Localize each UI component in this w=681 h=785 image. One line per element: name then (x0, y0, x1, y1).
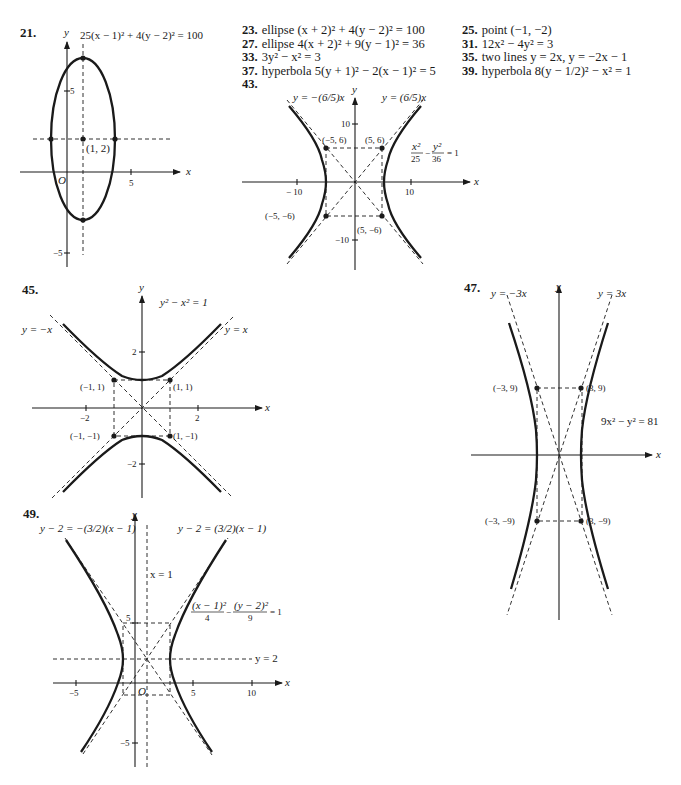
y-axis-label: y (138, 281, 144, 293)
vline-label: x = 1 (150, 568, 173, 580)
tick-label: −5 (53, 248, 63, 258)
tick-label: −2 (80, 413, 90, 423)
asymptote-left-label: y = −(6/5)x (292, 91, 345, 104)
equation-label: y² − x² = 1 (159, 296, 208, 308)
equation-label: x² 25 − y² 36 = 1 (411, 140, 459, 164)
co-vertex-right (112, 136, 117, 141)
point-label: (−3, −9) (485, 516, 515, 526)
origin-label: O (58, 174, 66, 186)
equation-label: 25(x − 1)² + 4(y − 2)² = 100 (80, 29, 204, 42)
figure-49-hyperbola: −5 5 10 5 −5 O x y x = 1 y = 2 y − 2 = −… (39, 508, 290, 770)
x-axis-label: x (473, 175, 479, 187)
tick-label: 2 (132, 347, 137, 357)
x-axis-label: x (264, 401, 270, 413)
vertex-top (80, 55, 85, 60)
asymptote-negative (50, 315, 232, 497)
tick-label: 5 (126, 613, 131, 623)
tick-label: 10 (405, 187, 415, 197)
y-axis-label: y (351, 83, 357, 95)
tick-label: 10 (247, 688, 257, 698)
point-label: (3, 9) (586, 383, 606, 393)
eq-minus: − (425, 148, 430, 158)
asymptote-negative (65, 538, 212, 755)
point-neg1-1 (111, 377, 116, 382)
y-axis-label: y (555, 280, 561, 292)
eq-den: 9 (248, 613, 253, 623)
center-label: (1, 2) (86, 142, 110, 155)
asymptote-left-label: y = −x (21, 323, 52, 335)
tick-label: −2 (127, 459, 137, 469)
co-vertex-left (48, 136, 53, 141)
tick-label: 10 (341, 119, 351, 129)
asymptote-left-label: y − 2 = −(3/2)(x − 1) (39, 522, 136, 535)
x-axis-label: x (284, 676, 290, 688)
point-neg3-9 (534, 385, 539, 390)
tick-label: −10 (335, 235, 350, 245)
hyperbola-right-branch (170, 540, 226, 752)
figures-canvas: 5 5 −5 O x y (1, 2) 25(x − 1)² + 4(y − 2… (0, 0, 681, 785)
point-neg3-neg9 (534, 518, 539, 523)
tick-label: −5 (120, 738, 130, 748)
center-point (80, 136, 85, 141)
point-5-6 (379, 145, 384, 150)
point-label: (−1, −1) (70, 431, 100, 441)
point-neg5-6 (323, 145, 328, 150)
eq-den: 36 (432, 154, 442, 164)
eq-num: x² (411, 140, 421, 152)
tick-label: 5 (191, 688, 196, 698)
eq-den: 25 (411, 154, 421, 164)
eq-num: (y − 2)² (234, 599, 269, 612)
hyperbola-left-branch (509, 323, 537, 589)
equation-label: (x − 1)² 4 − (y − 2)² 9 = 1 (191, 599, 282, 623)
point-label: (3, −9) (586, 516, 611, 526)
eq-num: y² (432, 140, 442, 152)
hyperbola-right-branch (581, 323, 608, 589)
hyperbola-left-branch (66, 540, 123, 752)
y-axis-label: y (131, 508, 137, 520)
point-label: (5, −6) (357, 225, 382, 235)
equation-label: 9x² − y² = 81 (601, 415, 659, 427)
figure-45-hyperbola: −2 2 2 −2 x y y² − x² = 1 y = −x y = x (… (21, 281, 270, 498)
asymptote-left-label: y = −3x (490, 287, 527, 299)
point-5-neg6 (379, 213, 384, 218)
x-axis-label: x (655, 448, 661, 460)
eq-minus: − (226, 607, 231, 617)
figure-21-ellipse: 5 5 −5 O x y (1, 2) 25(x − 1)² + 4(y − 2… (20, 26, 204, 267)
asymptote-right-label: y − 2 = (3/2)(x − 1) (177, 522, 267, 535)
asymptote-right-label: y = (6/5)x (381, 91, 426, 104)
origin-label: O (138, 685, 146, 697)
tick-label: −5 (69, 688, 79, 698)
point-neg5-neg6 (323, 213, 328, 218)
vertex-bottom (80, 217, 85, 222)
hline-label: y = 2 (255, 652, 278, 664)
point-label: (5, 6) (365, 135, 385, 145)
point-3-9 (578, 385, 583, 390)
point-label: (−3, 9) (493, 383, 518, 393)
point-label: (1, −1) (173, 431, 198, 441)
eq-rhs: = 1 (270, 607, 282, 617)
tick-label: 5 (70, 86, 75, 96)
asymptote-right-label: y = x (224, 323, 248, 335)
figure-47-hyperbola: x y y = −3x y = 3x 9x² − y² = 81 (−3, 9)… (471, 280, 661, 620)
point-label: (−5, −6) (265, 211, 295, 221)
point-3-neg9 (578, 518, 583, 523)
tick-label: − 10 (286, 187, 303, 197)
tick-label: 5 (129, 178, 134, 188)
y-axis-label: y (63, 26, 69, 38)
tick-label: 2 (195, 413, 200, 423)
figure-43-hyperbola: − 10 10 10 −10 x y (−5, 6) (5, 6) (−5, −… (242, 83, 479, 270)
point-neg1-neg1 (111, 433, 116, 438)
point-label: (1, 1) (173, 382, 193, 392)
asymptote-positive (52, 315, 235, 498)
x-axis-label: x (185, 165, 191, 177)
point-1-neg1 (167, 433, 172, 438)
eq-den: 4 (205, 613, 210, 623)
asymptote-right-label: y = 3x (597, 287, 626, 299)
eq-rhs: = 1 (447, 148, 459, 158)
point-label: (−1, 1) (80, 382, 105, 392)
point-1-1 (167, 377, 172, 382)
eq-num: (x − 1)² (192, 599, 227, 612)
point-label: (−5, 6) (322, 135, 347, 145)
